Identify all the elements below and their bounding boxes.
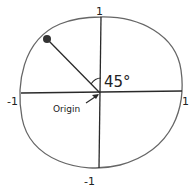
axis-label-bottom: -1 xyxy=(84,175,95,188)
x-axis xyxy=(21,91,182,93)
axis-label-top: 1 xyxy=(96,5,103,18)
angle-label: 45° xyxy=(104,73,131,91)
point-on-circle xyxy=(43,35,51,43)
origin-label: Origin xyxy=(53,104,80,114)
unit-circle-diagram: 1 -1 1 -1 45° Origin xyxy=(0,0,195,191)
axis-label-left: -1 xyxy=(7,95,18,108)
radius-line xyxy=(47,39,100,93)
axis-label-right: 1 xyxy=(182,95,189,108)
